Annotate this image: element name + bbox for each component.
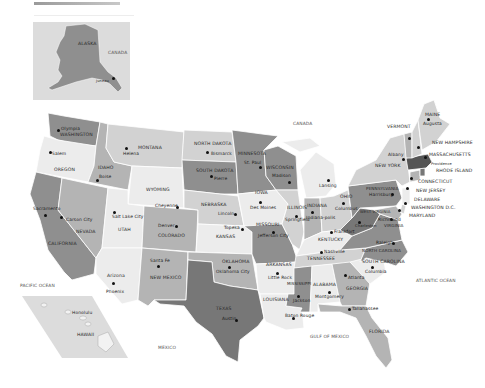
label-providence: Providence <box>431 163 452 167</box>
label-oklahoma-city: Oklahoma City <box>216 270 250 274</box>
label-cheyenne: Cheyenne <box>155 204 178 208</box>
us-map <box>0 0 485 388</box>
capital-dot-trenton <box>406 187 409 190</box>
label-olympia: Olympia <box>61 127 80 131</box>
label-topeka: Topeka <box>224 226 240 230</box>
label-minnesota: MINNESOTA <box>238 152 266 157</box>
capital-dot-columbus <box>342 202 345 205</box>
label-santa-fe: Santa Fe <box>150 259 170 263</box>
capital-dot-dover <box>404 202 407 205</box>
label-alaska: ALASKA <box>78 42 97 47</box>
label-atlanta: Atlanta <box>348 276 364 280</box>
label-pacific-ocean: PACIFIC OCEAN <box>20 284 55 288</box>
label-utah: UTAH <box>118 228 131 233</box>
capital-dot-tallahassee <box>348 308 351 311</box>
label-illinois: ILLINOIS <box>287 206 307 211</box>
capital-dot-pierre <box>210 175 213 178</box>
label-west-virginia: WEST VIRGINIA <box>360 210 390 214</box>
label-mexico: MEXICO <box>158 346 176 350</box>
label-arkansas: ARKANSAS <box>266 263 292 268</box>
label-pierre: Pierre <box>214 177 227 181</box>
capital-dot-baton-rouge <box>292 317 295 320</box>
label-juneau: Juneau <box>96 80 109 84</box>
capital-dot-denver <box>175 225 178 228</box>
capital-dot-sacramento <box>44 214 47 217</box>
capital-dot-raleigh <box>392 242 395 245</box>
label-phoenix: Phoenix <box>106 290 124 294</box>
label-indianapolis: Indiana-polis <box>306 216 335 220</box>
capital-dot-santa-fe <box>157 265 160 268</box>
label-augusta: Augusta <box>423 122 442 126</box>
label-frankfort: Frankfort <box>334 230 355 234</box>
label-des-moines: Des Moines <box>250 206 276 210</box>
label-columbia: Columbia <box>365 270 387 274</box>
state-colorado <box>142 206 198 252</box>
label-maine: MAINE <box>425 113 440 118</box>
label-atlantic-ocean: ATLANTIC OCEAN <box>416 279 456 283</box>
label-kansas: KANSAS <box>216 235 235 240</box>
label-ohio: OHIO <box>340 195 352 200</box>
capital-dot-salt-lake-city <box>113 211 116 214</box>
label-indiana: INDIANA <box>307 204 327 209</box>
label-california: CALIFORNIA <box>48 242 77 247</box>
capital-dot-lansing <box>327 179 330 182</box>
label-delaware: DELAWARE <box>414 198 440 203</box>
capital-dot-annapolis <box>398 209 401 212</box>
label-south-dakota: SOUTH DAKOTA <box>196 169 233 174</box>
capital-dot-indianapolis <box>311 211 314 214</box>
capital-dot-lincoln <box>234 213 237 216</box>
label-missouri: MISSOURI <box>256 223 279 228</box>
label-kentucky: KENTUCKY <box>318 238 343 243</box>
label-carson-city: Carson City <box>66 218 92 222</box>
label-new-hampshire: NEW HAMPSHIRE <box>432 141 473 146</box>
label-salem: Salem <box>52 152 66 156</box>
label-nevada: NEVADA <box>76 230 96 235</box>
label-montana: MONTANA <box>138 146 162 151</box>
state-rhode-island <box>420 168 425 176</box>
capital-dot-nashville <box>320 251 323 254</box>
capital-dot-boston <box>424 156 427 159</box>
label-arizona: Arizona <box>107 274 125 279</box>
label-florida: FLORIDA <box>369 330 390 335</box>
label-nashville: Nashville <box>324 250 345 254</box>
capital-dot-cheyenne <box>176 206 179 209</box>
capital-dot-boise <box>96 179 99 182</box>
label-rhode-island: RHODE ISLAND <box>436 169 472 174</box>
label-tennessee: TENNESSEE <box>307 257 335 262</box>
label-wyoming: WYOMING <box>146 188 170 193</box>
label-baton-rouge: Baton Rouge <box>285 314 314 318</box>
label-connecticut: CONNECTICUT <box>418 180 452 185</box>
label-pennsylvania: PENNSYLVANIA <box>366 187 398 191</box>
label-virginia: VIRGINIA <box>384 224 404 228</box>
capital-dot-concord <box>417 146 420 149</box>
label-sacramento: Sacramento <box>33 207 61 211</box>
label-washington-dc: WASHINGTON D.C. <box>411 206 455 211</box>
capital-dot-harrisburg <box>391 193 394 196</box>
capital-dot-juneau <box>112 77 115 80</box>
label-little-rock: Little Rock <box>268 276 292 280</box>
label-alabama: ALABAMA <box>313 283 336 288</box>
label-madison: Madison <box>272 174 291 178</box>
label-wisconsin: WISCONSIN <box>266 166 294 171</box>
hawaii-inset <box>22 296 128 358</box>
label-massachusetts: MASSACHUSETTS <box>429 153 471 158</box>
label-jefferson-city: Jefferson City <box>258 234 289 238</box>
label-nebraska: NEBRASKA <box>201 203 226 208</box>
capital-dot-carson-city <box>60 216 63 219</box>
label-jackson: Jackson <box>293 299 310 303</box>
capital-dot-frankfort <box>330 231 333 234</box>
capital-dot-st-paul <box>259 166 262 169</box>
capital-dot-bismarck <box>206 151 209 154</box>
label-bismarck: Bismarck <box>211 152 232 156</box>
label-salt-lake-city: Salt Lake City <box>112 215 143 219</box>
label-canada: CANADA <box>293 122 312 126</box>
label-south-carolina: SOUTH CAROLINA <box>362 260 405 265</box>
label-oklahoma: OKLAHOMA <box>222 260 249 265</box>
capital-dot-des-moines <box>259 201 262 204</box>
label-lincoln: Lincoln <box>218 212 234 216</box>
label-colorado: COLORADO <box>158 234 185 239</box>
label-st-paul: St. Paul <box>244 161 261 165</box>
capital-dot-albany <box>402 158 405 161</box>
label-hawaii: HAWAII <box>77 333 94 338</box>
label-boise: Boise <box>99 175 111 179</box>
